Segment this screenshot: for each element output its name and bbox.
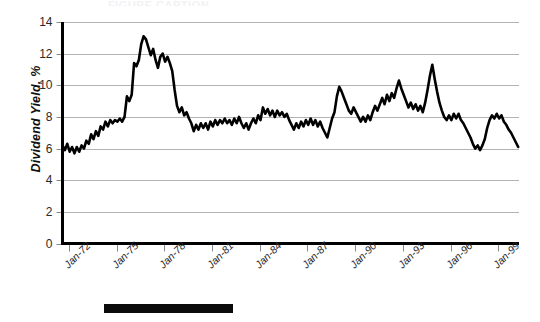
y-axis-tick-label: 6: [27, 143, 53, 155]
figure-container: FIGURE CAPTION Dividend Yield, % 0246810…: [0, 0, 540, 322]
y-axis-tick-label: 8: [27, 111, 53, 123]
y-axis-tick-label: 12: [27, 48, 53, 60]
dividend-yield-line-chart: [0, 0, 540, 322]
y-axis-tick-label: 10: [27, 79, 53, 91]
y-axis-tick-label: 0: [27, 238, 53, 250]
gridlines-group: [57, 23, 520, 245]
clipped-caption-fragment: FIGURE CAPTION: [108, 0, 298, 6]
y-axis-tick-label: 14: [27, 16, 53, 28]
y-axis-tick-label: 2: [27, 206, 53, 218]
dividend-yield-series-line: [63, 36, 519, 153]
caption-bar: [104, 304, 233, 313]
y-axis-tick-label: 4: [27, 174, 53, 186]
